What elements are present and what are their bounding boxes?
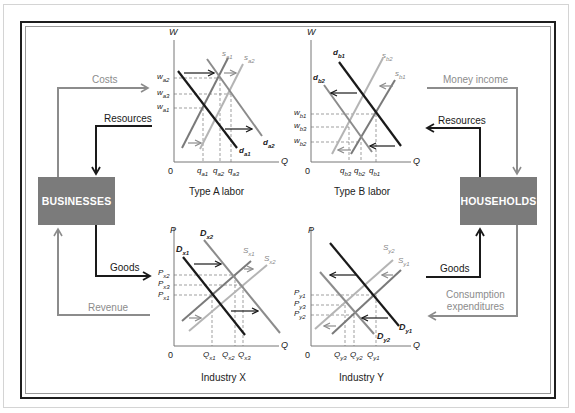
graph-x-curve-sx1: Sx1 (243, 246, 255, 257)
graph-b-y-axis-label: W (307, 27, 316, 37)
graph-x-curve-sx2: Sx2 (264, 254, 276, 265)
resources-to-business-arrow (96, 126, 152, 174)
consumption-label-line2: expenditures (446, 301, 505, 313)
graph-b-caption: Type B labor (334, 186, 390, 197)
graph-b-x-axis-label: Q (413, 156, 420, 166)
graph-a-tick-wa2: wa2 (157, 72, 169, 83)
businesses-label: BUSINESSES (42, 195, 112, 207)
graph-x-tick-px3: Px3 (158, 279, 170, 290)
graph-b-curve-sb2: sb2 (382, 51, 393, 62)
costs-label: Costs (92, 74, 118, 85)
money-income-flow-arrow (427, 88, 517, 174)
households-label: HOUSEHOLDS (460, 195, 536, 207)
graph-x-x-axis-label: Q (281, 340, 288, 350)
graph-industry-y (311, 228, 411, 346)
graph-type-b-labor (311, 40, 411, 162)
costs-flow-arrow (58, 88, 148, 177)
graph-b-curve-db1: db1 (333, 48, 345, 59)
consumption-label-line1: Consumption (446, 289, 505, 301)
graph-x-tick-qx1: Qx1 (203, 350, 216, 361)
graph-b-tick-wb3: wb3 (294, 121, 306, 132)
graph-x-tick-px2: Px2 (158, 268, 170, 279)
graph-y-tick-qy1: Qy1 (367, 350, 380, 361)
graph-a-caption: Type A labor (189, 186, 244, 197)
graph-x-y-axis-label: P (170, 225, 176, 235)
graph-a-tick-wa3: wa3 (157, 88, 169, 99)
graph-b-curve-sb1: sb1 (395, 69, 406, 80)
graph-b-curve-db2: db2 (313, 73, 325, 84)
graph-y-tick-py3: Py3 (294, 299, 306, 310)
graph-a-origin: 0 (168, 166, 173, 176)
graph-a-y-axis-label: W (169, 27, 178, 37)
graph-b-tick-wb1: wb1 (294, 108, 306, 119)
consumption-label: Consumption expenditures (446, 289, 505, 313)
graph-y-tick-qy3: Qy3 (334, 350, 347, 361)
graph-y-origin: 0 (305, 350, 310, 360)
graph-a-tick-qa3: qa3 (228, 166, 239, 177)
graph-x-curve-dx2: Dx2 (200, 228, 213, 240)
graph-b-tick-wb2: wb2 (294, 136, 306, 147)
graph-b-tick-qb3: qb3 (340, 166, 351, 177)
graph-x-caption: Industry X (201, 372, 246, 383)
graph-x-origin: 0 (168, 350, 173, 360)
graph-y-caption: Industry Y (339, 372, 384, 383)
money-income-label: Money income (443, 74, 508, 85)
graph-y-curve-sy2: Sy2 (383, 243, 395, 254)
graph-industry-x (174, 228, 280, 346)
graph-a-curve-da2: da2 (263, 138, 275, 149)
graph-b-tick-qb1: qb1 (369, 166, 380, 177)
graph-a-x-axis-label: Q (281, 156, 288, 166)
resources-left-label: Resources (104, 113, 152, 124)
businesses-box: BUSINESSES (38, 177, 115, 225)
goods-right-label: Goods (440, 263, 469, 274)
graph-y-y-axis-label: P (308, 225, 314, 235)
resources-right-label: Resources (438, 115, 486, 126)
graph-y-tick-qy2: Qy2 (350, 350, 363, 361)
revenue-label: Revenue (88, 302, 128, 313)
graph-a-tick-qa2: qa2 (213, 166, 224, 177)
graph-y-tick-py1: Py1 (294, 288, 306, 299)
graph-x-tick-px1: Px1 (158, 290, 170, 301)
graph-b-tick-qb2: qb2 (354, 166, 365, 177)
graph-y-x-axis-label: Q (413, 340, 420, 350)
graph-y-tick-py2: Py2 (294, 309, 306, 320)
graph-a-curve-da1: da1 (239, 146, 251, 157)
graph-a-curve-sa1: sa1 (222, 49, 233, 60)
graph-y-curve-sy1: Sy1 (398, 256, 410, 267)
graph-b-origin: 0 (305, 166, 310, 176)
households-box: HOUSEHOLDS (460, 177, 537, 225)
graph-y-curve-dy1: Dy1 (399, 322, 412, 334)
graph-x-tick-qx3: Qx3 (238, 350, 251, 361)
goods-left-label: Goods (110, 262, 139, 273)
graph-x-curve-dx1: Dx1 (176, 244, 189, 256)
graph-a-tick-wa1: wa1 (157, 102, 169, 113)
resources-from-households-arrow (427, 128, 480, 177)
graph-y-curve-dy2: Dy2 (377, 331, 390, 343)
graph-x-tick-qx2: Qx2 (222, 350, 235, 361)
graph-a-tick-qa1: qa1 (197, 166, 208, 177)
graph-a-curve-sa2: sa2 (244, 53, 255, 64)
